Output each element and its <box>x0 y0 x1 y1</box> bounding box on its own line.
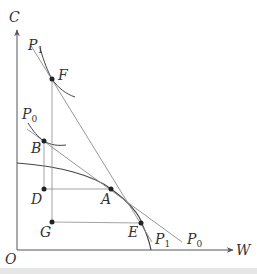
budget-constraint-diagram: C W O F B D A G E P1 P0 P1 P0 <box>0 0 257 274</box>
label-a: A <box>99 191 111 207</box>
point-f <box>50 77 55 82</box>
label-b: B <box>30 140 41 156</box>
point-b <box>42 139 47 144</box>
label-g: G <box>40 224 51 240</box>
label-f: F <box>57 67 69 83</box>
x-axis-label: W <box>236 242 252 258</box>
y-axis-label: C <box>9 9 20 25</box>
label-p1-upper: P1 <box>27 37 43 55</box>
label-d: D <box>30 191 42 207</box>
bottom-border <box>0 268 257 274</box>
point-e <box>139 221 144 226</box>
label-p0-upper: P0 <box>21 106 37 124</box>
guide-g-e-horizontal <box>52 222 141 223</box>
label-p0-lower: P0 <box>186 231 202 249</box>
label-e: E <box>127 224 138 240</box>
point-d <box>42 187 47 192</box>
label-p1-lower: P1 <box>154 231 170 249</box>
origin-label: O <box>5 251 17 267</box>
